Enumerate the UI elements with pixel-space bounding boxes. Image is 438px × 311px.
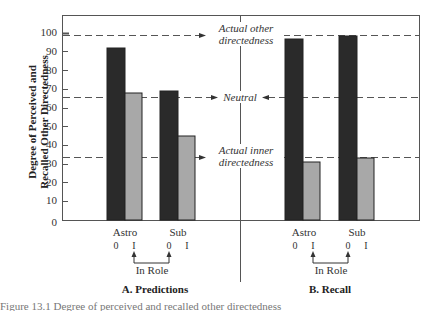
x-label-recall-sub: Sub xyxy=(336,226,378,238)
in-role-bracket-a xyxy=(134,255,169,263)
in-role-bracket-b-arrows xyxy=(311,251,351,257)
y-tick-marks xyxy=(62,34,69,202)
bar-recall-sub-o xyxy=(339,36,357,220)
in-role-bracket-a-arrows xyxy=(132,251,172,257)
panel-a-title: A. Predictions xyxy=(100,283,210,295)
annotation-actual-inner-line1: Actual inner xyxy=(208,144,284,156)
x-sub-recall-sub-o: 0 xyxy=(342,240,354,251)
x-label-recall-astro: Astro xyxy=(283,226,325,238)
annotation-neutral: Neutral xyxy=(219,91,261,103)
figure-caption: Figure 13.1 Degree of perceived and reca… xyxy=(0,300,438,311)
bar-recall-sub-i xyxy=(357,158,374,220)
bar-recall-astro-o xyxy=(285,39,303,220)
bar-recall-astro-i xyxy=(303,162,320,220)
x-sub-recall-astro-o: 0 xyxy=(289,240,301,251)
x-sub-pred-astro-o: 0 xyxy=(110,240,122,251)
in-role-label-a: In Role xyxy=(126,264,178,276)
bar-pred-sub-o xyxy=(160,91,178,220)
panel-a-bars xyxy=(107,48,195,220)
x-label-pred-sub: Sub xyxy=(157,226,199,238)
bar-pred-astro-i xyxy=(125,93,142,220)
panel-b-title: B. Recall xyxy=(280,283,380,295)
annotation-actual-inner: Actual inner directedness xyxy=(208,144,284,168)
x-sub-recall-astro-i: I xyxy=(307,240,319,251)
annotation-actual-other-line1: Actual other xyxy=(208,22,284,34)
chart: Degree of Perceived and Recalled Other D… xyxy=(0,0,438,311)
panel-b-bars xyxy=(285,36,374,220)
x-sub-pred-sub-i: I xyxy=(181,240,193,251)
x-sub-pred-sub-o: 0 xyxy=(163,240,175,251)
x-sub-recall-sub-i: I xyxy=(360,240,372,251)
in-role-bracket-b xyxy=(313,255,348,263)
in-role-label-b: In Role xyxy=(305,264,357,276)
annotation-actual-inner-line2: directedness xyxy=(208,156,284,168)
x-sub-pred-astro-i: I xyxy=(128,240,140,251)
annotation-actual-other: Actual other directedness xyxy=(208,22,284,46)
bar-pred-astro-o xyxy=(107,48,125,220)
annotation-actual-other-line2: directedness xyxy=(208,34,284,46)
x-label-pred-astro: Astro xyxy=(104,226,146,238)
bar-pred-sub-i xyxy=(178,136,195,220)
